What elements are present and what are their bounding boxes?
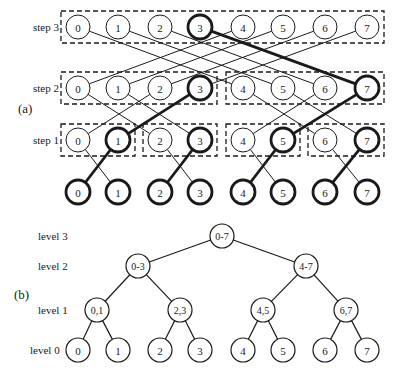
tree-node-2: 2 [148,338,172,362]
node-label: 2 [157,22,163,34]
node-label: 3 [197,135,203,147]
panel-b-label: (b) [14,287,29,302]
tree-node-label: 0-7 [215,231,228,242]
level-labels: level 3level 2level 1level 0 [30,230,68,356]
tree-edge [314,275,338,301]
tree-node-0: 0 [66,338,90,362]
node-1: 1 [106,180,130,204]
step-labels: step 3step 2step 1 [33,21,59,146]
tree-edge [271,275,297,302]
tree-edge [103,321,113,340]
node-7: 7 [355,128,379,152]
node-3: 3 [188,76,212,100]
node-5: 5 [271,76,295,100]
node-0: 0 [66,128,90,152]
node-label: 6 [322,135,328,147]
tree-node-label: 7 [364,345,370,357]
level-label: level 2 [38,260,68,272]
tree-edge [352,321,362,340]
node-label: 1 [115,22,121,34]
level-label: level 1 [38,304,68,316]
butterfly-edges [85,31,359,183]
tree-edge [268,321,277,340]
node-5: 5 [271,180,295,204]
node-label: 5 [280,83,286,95]
node-label: 2 [157,135,163,147]
tree-node-label: 3 [197,345,203,357]
tree-edge [185,321,194,340]
node-6: 6 [313,180,337,204]
tree-node-6,7: 6,7 [334,298,358,322]
tree-edge [165,321,174,340]
node-7: 7 [355,76,379,100]
node-label: 4 [240,83,246,95]
tree-node-0,1: 0,1 [85,298,109,322]
node-5: 5 [271,128,295,152]
tree-edges [83,240,361,339]
tree-node-3: 3 [188,338,212,362]
tree-node-6: 6 [313,338,337,362]
node-label: 7 [364,187,370,199]
node-label: 4 [240,22,246,34]
panel-a-label: (a) [18,101,32,116]
tree-edge [105,275,130,301]
tree-node-label: 2,3 [174,305,187,316]
node-label: 4 [240,187,246,199]
node-label: 7 [364,83,370,95]
tree-node-label: 6 [322,345,328,357]
node-6: 6 [313,15,337,39]
node-label: 5 [280,135,286,147]
node-4: 4 [231,76,255,100]
node-7: 7 [355,180,379,204]
tree-node-label: 4-7 [299,261,312,272]
reduction-diagram: 01234567012345670123456701234567 step 3s… [0,0,396,375]
node-label: 0 [75,187,81,199]
node-label: 7 [364,135,370,147]
node-label: 7 [364,22,370,34]
node-4: 4 [231,128,255,152]
tree-node-label: 6,7 [340,305,353,316]
tree-node-4-7: 4-7 [294,254,318,278]
tree-node-label: 5 [280,345,286,357]
tree-node-2,3: 2,3 [168,298,192,322]
node-7: 7 [355,15,379,39]
tree-node-0-7: 0-7 [210,224,234,248]
node-4: 4 [231,15,255,39]
node-label: 2 [157,187,163,199]
tree-node-label: 0,1 [91,305,104,316]
node-label: 4 [240,135,246,147]
tree-edge [248,321,257,340]
node-label: 3 [197,22,203,34]
step-label: step 1 [33,134,59,146]
step-label: step 3 [33,21,59,33]
node-label: 1 [115,83,121,95]
node-label: 0 [75,83,81,95]
tree-node-label: 1 [115,345,121,357]
node-6: 6 [313,128,337,152]
step-label: step 2 [33,82,59,94]
node-1: 1 [106,128,130,152]
node-label: 6 [322,83,328,95]
tree-node-0-3: 0-3 [126,254,150,278]
tree-edge [233,240,294,262]
node-label: 6 [322,187,328,199]
node-2: 2 [148,180,172,204]
node-label: 0 [75,135,81,147]
tree-edge [146,275,171,302]
tree-node-label: 4,5 [257,305,270,316]
node-5: 5 [271,15,295,39]
tree-edge [149,240,210,262]
tree-node-7: 7 [355,338,379,362]
node-label: 3 [197,83,203,95]
node-1: 1 [106,15,130,39]
tree-node-1: 1 [106,338,130,362]
tree-edge [83,321,92,339]
tree-node-label: 4 [240,345,246,357]
node-0: 0 [66,76,90,100]
node-label: 3 [197,187,203,199]
node-1: 1 [106,76,130,100]
node-label: 1 [115,135,121,147]
node-2: 2 [148,15,172,39]
tree-node-label: 0 [75,345,81,357]
node-0: 0 [66,180,90,204]
